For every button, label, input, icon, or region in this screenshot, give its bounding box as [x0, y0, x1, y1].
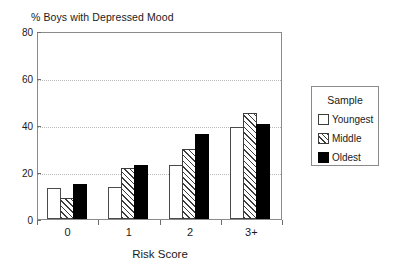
x-tick-label-3plus: 3+: [245, 226, 258, 238]
x-tick-mark-1: [98, 220, 99, 225]
legend-item-label: Oldest: [332, 152, 361, 163]
x-tick-mark-end: [282, 220, 283, 225]
x-tick-mark-2: [160, 220, 161, 225]
legend-item-youngest[interactable]: Youngest: [318, 113, 373, 125]
y-tick-mark-60: [37, 79, 41, 80]
y-tick-mark-80: [37, 32, 41, 33]
y-tick-mark-40: [37, 126, 41, 127]
x-axis-title: Risk Score: [132, 248, 188, 260]
bar-oldest-risk-3plus: [256, 124, 270, 219]
legend-item-label: Middle: [332, 133, 361, 144]
legend-title: Sample: [312, 94, 378, 106]
hatched-square-icon: [318, 133, 329, 144]
bar-youngest-risk-3plus: [230, 127, 244, 219]
y-tick-label-0: 0: [27, 215, 33, 226]
chart-title: % Boys with Depressed Mood: [31, 11, 174, 23]
bar-youngest-risk-2: [169, 165, 183, 219]
bar-youngest-risk-0: [47, 188, 61, 219]
y-tick-label-40: 40: [22, 121, 33, 132]
legend-item-oldest[interactable]: Oldest: [318, 151, 361, 163]
x-tick-label-0: 0: [65, 226, 71, 238]
bar-middle-risk-1: [121, 168, 135, 219]
y-axis: 020406080: [12, 32, 33, 220]
chart-figure: % Boys with Depressed Mood 020406080 Sam…: [0, 0, 396, 268]
black-square-icon: [318, 152, 329, 163]
white-square-icon: [318, 114, 329, 125]
bar-middle-risk-3plus: [243, 113, 257, 219]
bar-oldest-risk-1: [134, 165, 148, 219]
legend-item-label: Youngest: [332, 114, 373, 125]
plot-area: [37, 32, 282, 220]
x-tick-label-2: 2: [187, 226, 193, 238]
y-tick-mark-20: [37, 173, 41, 174]
y-tick-label-20: 20: [22, 168, 33, 179]
gridline-y-60: [38, 80, 281, 81]
x-tick-mark-0: [37, 220, 38, 225]
bar-oldest-risk-0: [73, 184, 87, 219]
bar-oldest-risk-2: [195, 134, 209, 219]
y-tick-label-60: 60: [22, 74, 33, 85]
x-tick-label-1: 1: [126, 226, 132, 238]
plot-inner: [38, 33, 281, 219]
bar-middle-risk-0: [60, 198, 74, 219]
bar-middle-risk-2: [182, 149, 196, 220]
legend-item-middle[interactable]: Middle: [318, 132, 361, 144]
x-tick-mark-3: [221, 220, 222, 225]
y-tick-label-80: 80: [22, 27, 33, 38]
bar-youngest-risk-1: [108, 187, 122, 219]
legend: Sample YoungestMiddleOldest: [311, 86, 379, 166]
